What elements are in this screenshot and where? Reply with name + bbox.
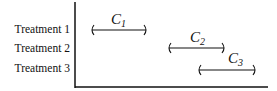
svg-text:C3: C3: [228, 50, 243, 68]
svg-text:C1: C1: [111, 11, 126, 29]
interval-c1: C1: [92, 11, 146, 35]
interval-c3: C3: [199, 50, 255, 75]
interval-c2: C2: [169, 29, 224, 53]
svg-text:C2: C2: [190, 29, 205, 47]
interval-diagram: C1 C2 C3: [0, 0, 277, 91]
